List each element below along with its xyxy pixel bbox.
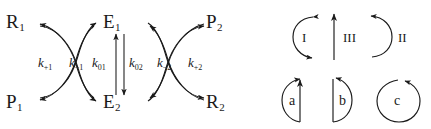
- legend-label-arc-c: c: [394, 94, 400, 108]
- rate-constant-k-plus-2: k+2: [188, 56, 202, 69]
- legend-label-arc-I: I: [302, 31, 306, 44]
- figure-canvas: R1 P1 E1 E2 P2 R2 k+1 k−1 k01 k02 k−2 k+…: [0, 0, 431, 129]
- legend-label-arc-a: a: [289, 94, 295, 108]
- species-top-center: E1: [103, 12, 120, 31]
- rate-constant-k-minus-2: k−2: [157, 56, 171, 69]
- rate-constant-k-plus-1: k+1: [38, 56, 52, 69]
- species-bottom-left: P1: [6, 92, 22, 111]
- legend-label-arc-III: III: [343, 31, 356, 44]
- legend-label-arc-II: II: [398, 31, 407, 44]
- species-top-right: P2: [206, 12, 222, 31]
- legend-label-arc-b: b: [339, 94, 346, 108]
- rate-constant-k-minus-1: k−1: [69, 56, 83, 69]
- species-top-left: R1: [6, 12, 24, 31]
- species-bottom-center: E2: [103, 92, 120, 111]
- rate-constant-k-0-1: k01: [92, 56, 106, 69]
- species-bottom-right: R2: [206, 92, 224, 111]
- rate-constant-k-0-2: k02: [129, 56, 143, 69]
